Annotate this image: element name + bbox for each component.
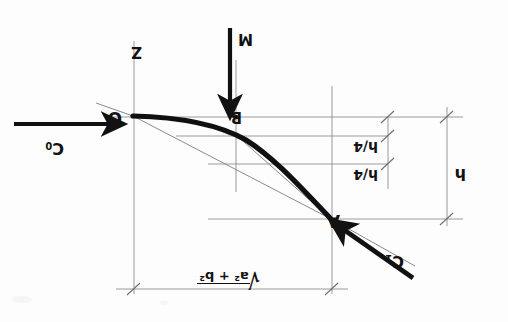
label-tension-c1: C1: [385, 253, 404, 269]
label-quarter-h-lower: h/4: [353, 140, 378, 154]
radical-sign: √: [249, 268, 260, 289]
chord-lines: [96, 103, 415, 266]
guide-lines: [106, 41, 463, 294]
rotated-drawing-group: A B O Z M C0 C1 h h/4 h/4 √a² + b²: [0, 0, 508, 322]
label-tension-c0-letter: C: [52, 139, 64, 158]
label-point-a: A: [327, 212, 340, 229]
figure-canvas: A B O Z M C0 C1 h h/4 h/4 √a² + b²: [0, 0, 508, 322]
label-tension-c1-letter: C: [392, 252, 404, 271]
label-quarter-h-upper: h/4: [353, 168, 378, 182]
label-height-h: h: [455, 166, 466, 182]
scan-artifact-2: [160, 300, 168, 305]
label-tension-c0-sub: 0: [45, 140, 52, 151]
scan-artifact-1: [12, 296, 32, 303]
dot-point-b-curve: [241, 136, 245, 140]
label-point-o: O: [108, 109, 122, 126]
radicand: a² + b²: [197, 270, 249, 284]
label-tension-c1-sub: 1: [385, 253, 392, 264]
label-point-b: B: [231, 109, 242, 124]
label-force-m: M: [238, 31, 253, 46]
label-axis-z: Z: [131, 44, 142, 59]
label-tension-c0: C0: [45, 140, 64, 156]
label-span-formula: √a² + b²: [197, 269, 260, 286]
